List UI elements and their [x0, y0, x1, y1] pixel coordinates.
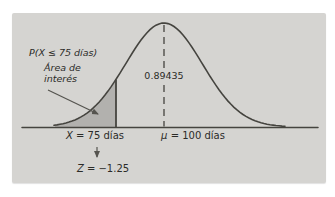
probability-expression-label: P(X ≤ 75 días) — [29, 48, 97, 58]
figure-canvas: P(X ≤ 75 días) Área de interés 0.89435 X… — [0, 0, 335, 197]
area-of-interest-label: Área de interés — [44, 62, 81, 84]
normal-distribution-plot — [0, 0, 335, 197]
shaded-area-left-tail — [55, 79, 116, 127]
z-value-label: Z = −1.25 — [77, 163, 129, 174]
z-value-text: = −1.25 — [84, 163, 129, 174]
area-of-interest-line1: Área de — [44, 62, 81, 73]
z-variable: Z — [77, 163, 84, 174]
mu-value-text: = 100 días — [167, 130, 224, 141]
area-of-interest-line2: interés — [44, 73, 81, 84]
probability-value-label: 0.89435 — [141, 71, 186, 81]
mean-value-label: μ = 100 días — [161, 130, 225, 141]
x-value-label: X = 75 días — [66, 130, 124, 141]
area-annotation-arrow — [48, 90, 98, 114]
x-variable: X — [66, 130, 73, 141]
x-value-text: = 75 días — [73, 130, 124, 141]
